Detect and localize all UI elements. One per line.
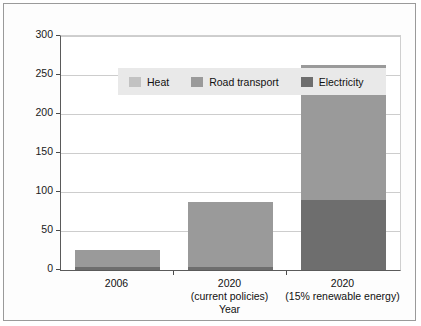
x-tick-mark (286, 271, 287, 275)
bar-segment-road-transport (75, 250, 160, 267)
legend-swatch-road-transport (191, 77, 203, 87)
plot-area: Heat Road transport Electricity (60, 35, 401, 271)
x-category-line1: 2020 (273, 277, 413, 290)
y-tick-label: 100 (24, 184, 53, 196)
legend-label-heat: Heat (147, 76, 169, 88)
legend-label-electricity: Electricity (319, 76, 364, 88)
y-tick-label: 300 (24, 28, 53, 40)
legend-item-road-transport: Road transport (191, 76, 278, 88)
legend-label-road-transport: Road transport (209, 76, 278, 88)
x-tick-mark (173, 271, 174, 275)
x-category-label: 2020(15% renewable energy) (273, 277, 413, 303)
y-tick-label: 150 (24, 145, 53, 157)
bar-segment-electricity (188, 267, 273, 270)
bar-segment-electricity (75, 267, 160, 270)
x-axis-label: Year (60, 303, 399, 315)
y-tick-label: 50 (24, 223, 53, 235)
gridline (61, 36, 400, 37)
bar-segment-road-transport (188, 202, 273, 267)
chart-legend: Heat Road transport Electricity (118, 68, 386, 95)
y-tick-label: 200 (24, 106, 53, 118)
bar-segment-electricity (301, 200, 386, 270)
legend-swatch-heat (129, 77, 141, 87)
y-tick-label: 250 (24, 67, 53, 79)
y-tick-label: 0 (24, 262, 53, 274)
x-category-line2: (15% renewable energy) (273, 290, 413, 303)
legend-item-heat: Heat (129, 76, 169, 88)
chart-frame: Renewable energy (TWh) 05010015020025030… (3, 3, 416, 321)
legend-item-electricity: Electricity (301, 76, 364, 88)
legend-swatch-electricity (301, 77, 313, 87)
